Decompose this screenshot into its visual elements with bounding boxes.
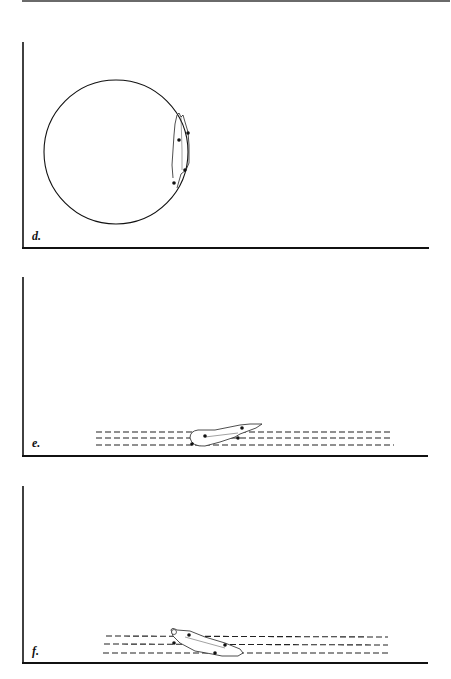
panel-d <box>22 42 429 248</box>
figure-horizontal-icon <box>190 424 262 446</box>
figure-diagonal-icon <box>171 629 243 657</box>
panel-d-label: d. <box>32 229 41 244</box>
panel-e <box>22 277 428 456</box>
panel-f <box>22 486 428 663</box>
dashed-line-top <box>106 636 388 637</box>
figure-vertical-icon <box>172 113 190 188</box>
figure-canvas <box>0 0 451 679</box>
dashed-line-middle <box>104 644 388 645</box>
panel-e-label: e. <box>32 436 40 451</box>
panel-f-label: f. <box>32 644 39 659</box>
circular-path <box>44 80 188 224</box>
